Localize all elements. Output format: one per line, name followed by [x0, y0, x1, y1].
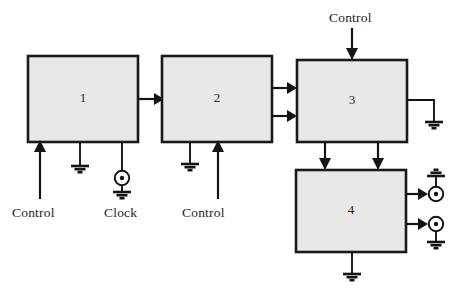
block-2-label: 2 — [214, 90, 221, 105]
block-1[interactable]: 1 — [28, 56, 138, 142]
label-control-block1: Control — [12, 205, 55, 221]
control-input-block1 — [34, 140, 46, 199]
ground-block3-right — [407, 100, 443, 128]
ground-block1 — [71, 142, 89, 172]
connector-block1-to-block2 — [138, 93, 164, 105]
connector-block2-to-block3-upper — [272, 82, 297, 94]
output-terminal-lower[interactable] — [406, 217, 445, 248]
diagram-canvas: 1 2 — [0, 0, 461, 293]
clock-terminal-block1[interactable] — [113, 142, 131, 198]
ground-block4 — [343, 252, 361, 280]
connector-block3-to-block4-left — [319, 142, 331, 170]
connector-block3-to-block4-right — [372, 142, 384, 170]
block-2[interactable]: 2 — [162, 56, 272, 142]
label-control-block2: Control — [182, 205, 225, 221]
control-input-block2 — [212, 140, 224, 199]
block-diagram: 1 2 — [0, 0, 461, 293]
block-4-label: 4 — [348, 202, 355, 217]
output-terminal-upper[interactable] — [406, 170, 445, 201]
control-input-block3 — [346, 28, 358, 60]
block-3[interactable]: 3 — [297, 60, 407, 142]
label-control-block3: Control — [329, 10, 372, 26]
block-1-label: 1 — [80, 90, 87, 105]
connector-block2-to-block3-lower — [272, 110, 297, 122]
block-4[interactable]: 4 — [296, 170, 406, 252]
label-clock: Clock — [104, 205, 137, 221]
block-3-label: 3 — [349, 92, 356, 107]
ground-block2 — [181, 142, 199, 170]
